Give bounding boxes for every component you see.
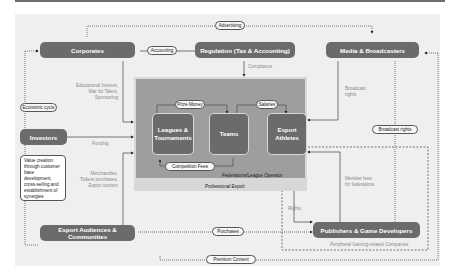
salaries-text: Salaries (259, 102, 276, 107)
purchases-pill: Purchases (212, 227, 244, 236)
regulation-node[interactable]: Regulation (Tax & Accounting) (195, 42, 295, 58)
accounting-text: Accounting (151, 48, 174, 53)
premium-content-pill: Premium Content (206, 255, 256, 264)
audiences-label: Esport Audiences & Communities (40, 226, 135, 240)
member-fees-line: for federations (345, 182, 374, 188)
member-fees-label: Member fees for federations (345, 176, 374, 188)
economic-cycle-pill: Economic cycle (20, 103, 57, 112)
broadcast-flow-line: rights (345, 92, 366, 98)
salaries-pill: Salaries (256, 100, 278, 109)
corporate-flow-line: Sponsoring (66, 95, 118, 101)
audiences-node[interactable]: Esport Audiences & Communities (40, 225, 135, 241)
federations-label: Federations/League Operator (222, 173, 282, 179)
investors-label: Investors (30, 134, 58, 141)
media-node[interactable]: Media & Broadcasters (326, 42, 419, 58)
media-label: Media & Broadcasters (340, 47, 405, 54)
purchases-text: Purchases (217, 229, 239, 234)
teams-node[interactable]: Teams (209, 113, 249, 155)
investors-node[interactable]: Investors (20, 129, 67, 145)
audience-flow-line: Esport tourism (66, 183, 118, 189)
broadcast-rights-pill: Broadcast rights (372, 125, 418, 134)
leagues-node[interactable]: Leagues & Tournaments (152, 113, 194, 155)
regulation-label: Regulation (Tax & Accounting) (200, 47, 290, 54)
premium-content-text: Premium Content (213, 257, 249, 262)
advertising-pill: Advertising (215, 21, 245, 30)
funding-label: Funding (92, 141, 109, 147)
value-creation-text: Value creation through customer base dev… (24, 158, 60, 199)
broadcast-rights-text: Broadcast rights (378, 127, 411, 132)
corporates-node[interactable]: Corporates (40, 42, 135, 58)
peripheral-label: Peripheral Gaming-related Companies (330, 242, 408, 248)
competition-fees-pill: Competition Fees (165, 162, 215, 171)
corporate-flow-label: Educational Interest, War for Talent, Sp… (66, 83, 118, 101)
accounting-pill: Accounting (147, 46, 177, 55)
corporates-label: Corporates (71, 47, 104, 54)
broadcast-flow-label: Broadcast rights (345, 86, 366, 98)
value-creation-note: Value creation through customer base dev… (20, 155, 66, 201)
rights-label: Rights (288, 206, 301, 212)
prize-money-text: Prize Money (177, 102, 203, 107)
economic-cycle-text: Economic cycle (23, 105, 55, 110)
professional-esport-label: Professional Esport (205, 184, 245, 190)
athletes-label: Esport Athletes (268, 126, 306, 142)
teams-label: Teams (220, 130, 239, 138)
prize-money-pill: Prize Money (175, 100, 205, 109)
audience-flow-label: Merchandise, Tickets purchases, Esport t… (66, 171, 118, 189)
competition-fees-text: Competition Fees (172, 164, 208, 169)
publishers-node[interactable]: Publishers & Game Developers (313, 222, 420, 238)
advertising-text: Advertising (219, 23, 242, 28)
publishers-label: Publishers & Game Developers (321, 227, 413, 234)
compliance-label: Compliance (248, 64, 272, 70)
athletes-node[interactable]: Esport Athletes (267, 113, 307, 155)
leagues-label: Leagues & Tournaments (153, 126, 193, 142)
